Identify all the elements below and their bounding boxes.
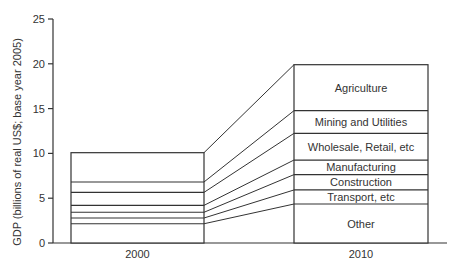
connector-line [204, 160, 294, 205]
segment-label: Wholesale, Retail, etc [308, 141, 415, 153]
y-axis: 0510152025 [33, 13, 53, 249]
y-tick-label: 25 [33, 13, 45, 25]
y-tick-label: 0 [39, 237, 45, 249]
segment-label: Manufacturing [326, 161, 396, 173]
bar-2000 [71, 153, 204, 243]
chart-canvas: 0510152025 20002010 OtherTransport, etcC… [0, 0, 458, 273]
y-tick-label: 15 [33, 103, 45, 115]
connector-lines [204, 65, 294, 224]
x-category-label: 2010 [349, 248, 373, 260]
segment-label: Transport, etc [327, 191, 395, 203]
segment-label: Mining and Utilities [315, 116, 408, 128]
segment-label: Other [347, 218, 375, 230]
y-tick-label: 20 [33, 58, 45, 70]
y-tick-label: 10 [33, 147, 45, 159]
y-tick-label: 5 [39, 192, 45, 204]
segment-label: Construction [330, 176, 392, 188]
y-axis-title: GDP (billions of real US$; base year 200… [11, 38, 23, 246]
x-category-label: 2000 [125, 248, 149, 260]
connector-line [204, 65, 294, 153]
segment-label: Agriculture [335, 82, 388, 94]
gdp-stacked-bar-chart: 0510152025 20002010 OtherTransport, etcC… [0, 0, 458, 273]
x-axis: 20002010 [53, 243, 447, 260]
connector-line [204, 133, 294, 192]
connector-line [204, 111, 294, 182]
